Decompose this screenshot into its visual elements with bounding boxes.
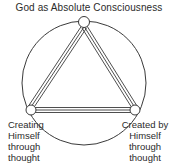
node-bottom-right[interactable] — [130, 105, 140, 115]
label-right-line-4: thought — [107, 152, 178, 163]
node-bottom-left[interactable] — [26, 105, 36, 115]
created-by-himself-label: Created by Himself through thought — [107, 119, 178, 163]
label-right-line-3: through — [107, 141, 178, 152]
edge-top-to-bottom-right — [82, 26, 137, 108]
label-right-line-2: Himself — [107, 130, 178, 141]
label-left-line-3: through — [8, 141, 44, 152]
label-left-line-2: Himself — [8, 130, 44, 141]
edge-top-to-bottom-left — [29, 26, 87, 108]
edge-bottom-left-to-bottom-right — [33, 108, 133, 113]
creating-himself-label: Creating Himself through thought — [8, 119, 44, 163]
diagram-container: God as Absolute Consciousness Creating — [0, 0, 178, 168]
label-left-line-4: thought — [8, 152, 44, 163]
label-right-line-1: Created by — [107, 119, 178, 130]
node-top[interactable] — [79, 17, 90, 28]
label-left-line-1: Creating — [8, 119, 44, 130]
